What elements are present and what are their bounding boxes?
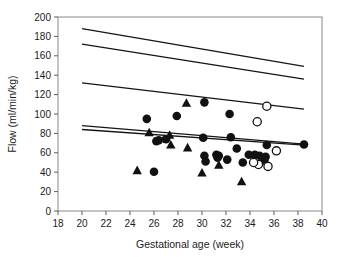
marker-filled-circle <box>233 144 242 153</box>
y-tick-label: 180 <box>34 31 51 42</box>
y-tick-label: 60 <box>40 147 52 158</box>
x-tick-label: 18 <box>52 218 64 229</box>
x-tick-label: 30 <box>196 218 208 229</box>
y-tick-label: 80 <box>40 128 52 139</box>
marker-filled-circle <box>223 155 232 164</box>
marker-open-circle <box>263 102 271 110</box>
y-tick-label: 20 <box>40 186 52 197</box>
chart-figure: 020406080100120140160180200 182022242628… <box>0 0 339 257</box>
marker-filled-circle <box>173 112 182 121</box>
x-tick-label: 40 <box>316 218 328 229</box>
x-tick-label: 32 <box>220 218 232 229</box>
marker-open-circle <box>264 162 272 170</box>
x-tick-label: 28 <box>172 218 184 229</box>
y-tick-label: 100 <box>34 109 51 120</box>
marker-open-circle <box>253 118 261 126</box>
x-tick-label: 26 <box>148 218 160 229</box>
marker-filled-circle <box>152 137 161 146</box>
marker-filled-circle <box>213 153 222 162</box>
marker-filled-circle <box>225 110 234 119</box>
marker-filled-circle <box>199 133 208 142</box>
marker-filled-circle <box>200 98 209 107</box>
marker-open-circle <box>272 147 280 155</box>
x-tick-label: 34 <box>244 218 256 229</box>
marker-filled-circle <box>261 152 270 161</box>
marker-filled-circle <box>201 157 210 166</box>
x-tick-label: 20 <box>76 218 88 229</box>
x-tick-label: 22 <box>100 218 112 229</box>
x-axis-label: Gestational age (week) <box>136 238 244 250</box>
x-tick-label: 38 <box>292 218 304 229</box>
marker-filled-circle <box>263 141 272 150</box>
marker-filled-circle <box>143 115 152 124</box>
marker-filled-circle <box>300 140 309 149</box>
scatter-plot-svg: 020406080100120140160180200 182022242628… <box>0 0 339 257</box>
y-tick-label: 200 <box>34 12 51 23</box>
y-tick-label: 140 <box>34 70 51 81</box>
marker-filled-circle <box>227 133 236 142</box>
y-tick-label: 120 <box>34 89 51 100</box>
marker-filled-circle <box>150 167 159 176</box>
marker-filled-circle <box>239 158 248 167</box>
x-tick-label: 24 <box>124 218 136 229</box>
marker-open-circle <box>250 158 258 166</box>
y-axis-label: Flow (ml/min/kg) <box>6 75 18 152</box>
y-tick-label: 40 <box>40 167 52 178</box>
x-tick-label: 36 <box>268 218 280 229</box>
y-tick-label: 160 <box>34 50 51 61</box>
y-tick-label: 0 <box>45 206 51 217</box>
